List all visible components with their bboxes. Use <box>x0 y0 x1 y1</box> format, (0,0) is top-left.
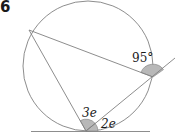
label-95-degrees: 95° <box>132 51 153 65</box>
circle-geometry-diagram: 95° 3e 2e <box>0 0 175 138</box>
label-2e: 2e <box>100 117 116 131</box>
label-3e: 3e <box>82 106 97 120</box>
chord-AC <box>29 30 86 131</box>
